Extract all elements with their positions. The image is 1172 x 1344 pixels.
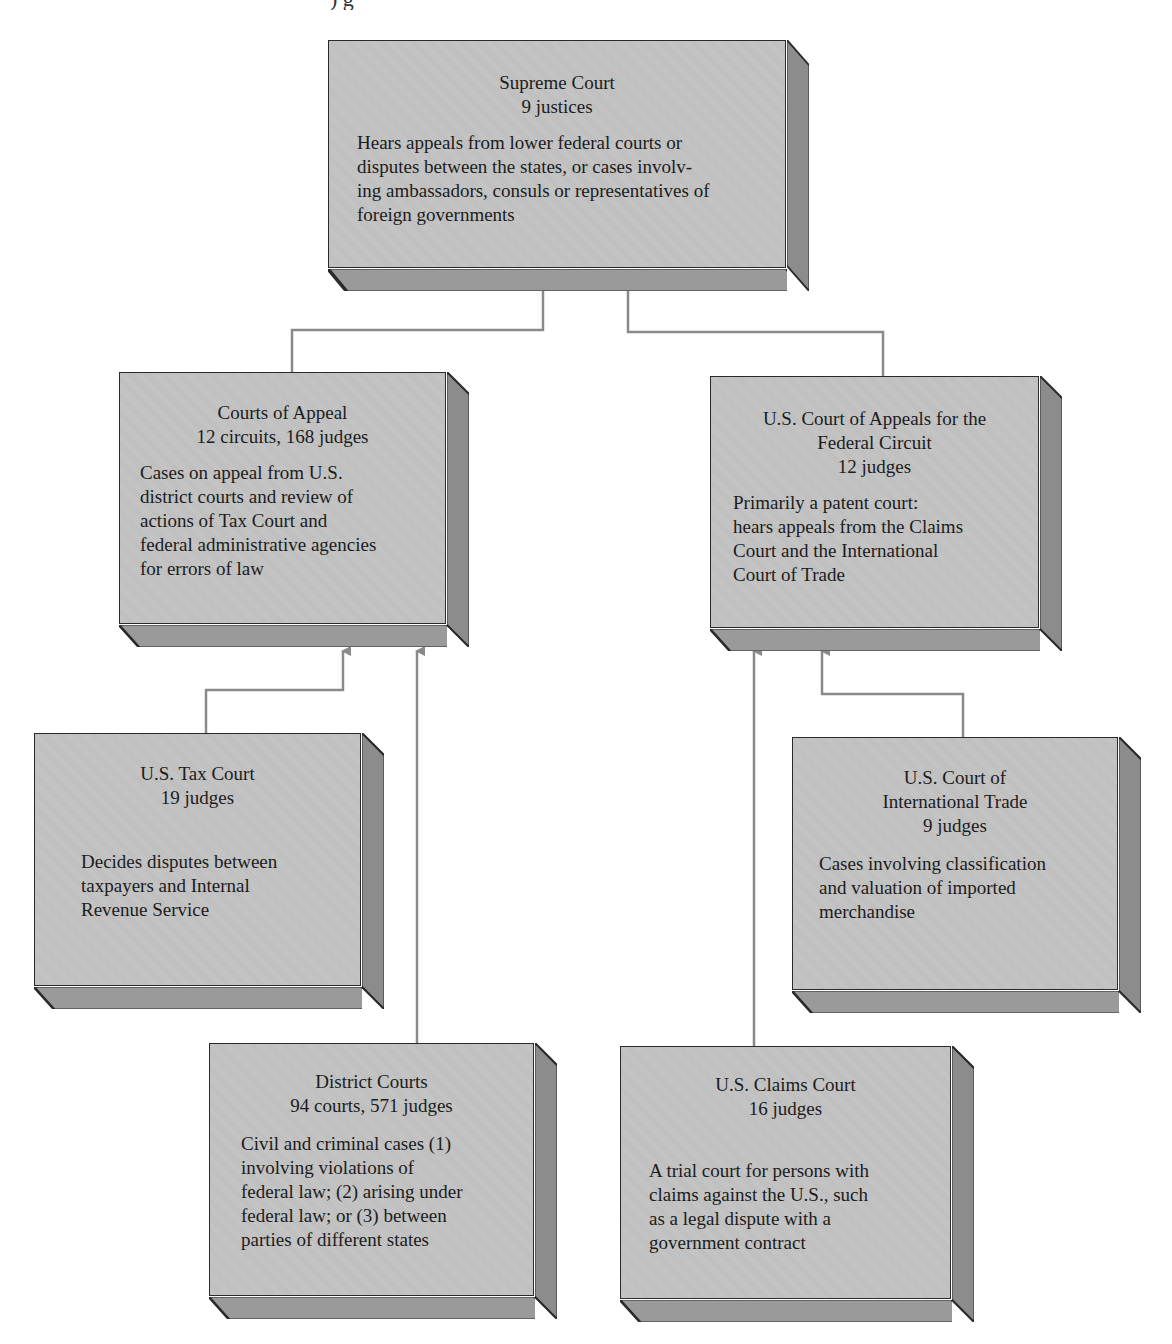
node-title: Federal Circuit [711, 431, 1038, 455]
node-description-line: parties of different states [241, 1228, 533, 1252]
node-description-line: actions of Tax Court and [140, 509, 445, 533]
node-description-line: federal law; (2) arising under [241, 1180, 533, 1204]
node-description-line: merchandise [819, 900, 1117, 924]
box-bottom-face [209, 1297, 535, 1319]
box-bottom-face [710, 629, 1040, 651]
node-claims-court: U.S. Claims Court 16 judges A trial cour… [620, 1046, 951, 1299]
node-count: 12 judges [711, 455, 1038, 479]
node-description-line: taxpayers and Internal [81, 874, 360, 898]
box-bottom-face [792, 991, 1119, 1013]
node-description-line: and valuation of imported [819, 876, 1117, 900]
node-description-line: claims against the U.S., such [649, 1183, 950, 1207]
node-description-line: Court and the International [733, 539, 1038, 563]
node-description-line: Cases on appeal from U.S. [140, 461, 445, 485]
node-count: 16 judges [621, 1097, 950, 1121]
node-description-line: Cases involving classification [819, 852, 1117, 876]
node-title: Courts of Appeal [120, 401, 445, 425]
box-side-face [535, 1043, 557, 1319]
node-title: International Trade [793, 790, 1117, 814]
node-description-line: disputes between the states, or cases in… [357, 155, 785, 179]
node-title: U.S. Tax Court [35, 762, 360, 786]
node-title: District Courts [210, 1070, 533, 1094]
box-bottom-face [620, 1300, 952, 1322]
node-federal-circuit: U.S. Court of Appeals for the Federal Ci… [710, 376, 1039, 628]
node-description-line: Hears appeals from lower federal courts … [357, 131, 785, 155]
node-title: U.S. Court of [793, 766, 1117, 790]
node-description-line: foreign governments [357, 203, 785, 227]
node-description-line: Revenue Service [81, 898, 360, 922]
page-text-fragment: ) g [330, 0, 630, 10]
node-description-line: involving violations of [241, 1156, 533, 1180]
box-bottom-face [34, 987, 362, 1009]
node-tax-court: U.S. Tax Court 19 judges Decides dispute… [34, 733, 361, 986]
node-title: Supreme Court [329, 71, 785, 95]
box-side-face [787, 40, 809, 291]
node-count: 9 justices [329, 95, 785, 119]
node-description-line: district courts and review of [140, 485, 445, 509]
box-side-face [1119, 737, 1141, 1013]
node-description-line: for errors of law [140, 557, 445, 581]
node-supreme-court: Supreme Court 9 justices Hears appeals f… [328, 40, 786, 268]
node-international-trade: U.S. Court of International Trade 9 judg… [792, 737, 1118, 990]
node-description-line: federal administrative agencies [140, 533, 445, 557]
node-count: 9 judges [793, 814, 1117, 838]
box-side-face [447, 372, 469, 647]
box-bottom-face [328, 269, 787, 291]
node-courts-of-appeal: Courts of Appeal 12 circuits, 168 judges… [119, 372, 446, 624]
node-description-line: ing ambassadors, consuls or representati… [357, 179, 785, 203]
node-title: U.S. Court of Appeals for the [711, 407, 1038, 431]
node-description-line: Decides disputes between [81, 850, 360, 874]
node-count: 19 judges [35, 786, 360, 810]
node-description-line: hears appeals from the Claims [733, 515, 1038, 539]
node-description-line: Court of Trade [733, 563, 1038, 587]
node-description-line: Primarily a patent court: [733, 491, 1038, 515]
node-description-line: Civil and criminal cases (1) [241, 1132, 533, 1156]
node-count: 94 courts, 571 judges [210, 1094, 533, 1118]
box-side-face [362, 733, 384, 1009]
box-side-face [952, 1046, 974, 1322]
node-description-line: A trial court for persons with [649, 1159, 950, 1183]
node-district-courts: District Courts 94 courts, 571 judges Ci… [209, 1043, 534, 1296]
node-description-line: as a legal dispute with a [649, 1207, 950, 1231]
node-description-line: federal law; or (3) between [241, 1204, 533, 1228]
node-count: 12 circuits, 168 judges [120, 425, 445, 449]
box-side-face [1040, 376, 1062, 651]
node-description-line: government contract [649, 1231, 950, 1255]
box-bottom-face [119, 625, 447, 647]
node-title: U.S. Claims Court [621, 1073, 950, 1097]
